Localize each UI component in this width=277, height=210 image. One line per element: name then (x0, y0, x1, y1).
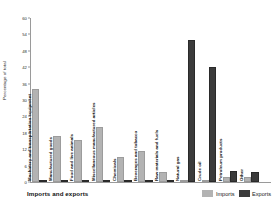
bar-exports (145, 180, 152, 182)
legend-label: Imports (216, 191, 235, 197)
bar-group: Manufactured goods (53, 18, 74, 182)
chart-title: Imports and exports (27, 190, 88, 197)
bar-imports (74, 140, 81, 182)
bar-exports (209, 67, 216, 182)
bar-imports (117, 157, 124, 182)
bar-exports (103, 180, 110, 182)
legend-swatch-imports (202, 190, 213, 197)
bar-exports (188, 40, 195, 182)
legend-label: Exports (252, 191, 271, 197)
bar-imports (159, 172, 166, 182)
x-axis-line (30, 182, 271, 183)
bar-imports (138, 151, 145, 182)
bar-group: Petroleum products (223, 18, 244, 182)
bar-imports (244, 177, 251, 182)
bar-groups: Machinery and transportation equipmentMa… (30, 18, 271, 182)
chart-footer: Imports and exports ImportsExports (0, 190, 277, 210)
bar-imports (32, 89, 39, 182)
bar-exports (82, 180, 89, 182)
bar-chart: Percentage of total 06121824303642485460… (0, 0, 277, 210)
bar-group: Food and live animals (74, 18, 95, 182)
legend-item-imports: Imports (202, 190, 234, 197)
bar-imports (180, 180, 187, 182)
bar-imports (53, 136, 60, 182)
bar-imports (223, 177, 230, 182)
bar-imports (202, 180, 209, 182)
bar-group: Crude oil (202, 18, 223, 182)
bar-imports (96, 127, 103, 182)
bar-group: Chemicals (117, 18, 138, 182)
bar-exports (39, 180, 46, 182)
bar-exports (251, 172, 258, 182)
bar-group: Natural gas (180, 18, 201, 182)
chart-legend: ImportsExports (202, 190, 271, 197)
bar-group: Machinery and transportation equipment (32, 18, 53, 182)
legend-swatch-exports (239, 190, 250, 197)
bar-group: Raw materials and fuels (159, 18, 180, 182)
bar-exports (230, 171, 237, 182)
bar-exports (61, 180, 68, 182)
legend-item-exports: Exports (239, 190, 271, 197)
y-axis-title: Percentage of total (2, 61, 7, 100)
bar-group: Beverages and tobacco (138, 18, 159, 182)
bar-group: Other (244, 18, 265, 182)
bar-exports (124, 180, 131, 182)
bar-group: Miscellaneous manufactured articles (96, 18, 117, 182)
plot-area: 06121824303642485460 Machinery and trans… (30, 18, 271, 182)
bar-exports (167, 180, 174, 182)
